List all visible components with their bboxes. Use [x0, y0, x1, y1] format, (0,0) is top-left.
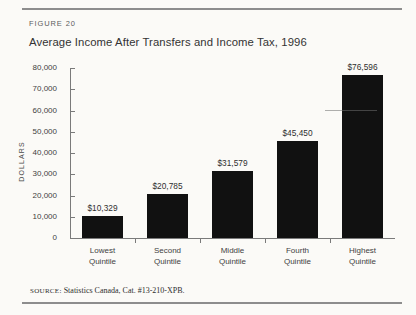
bar-slot: $45,450 [265, 68, 330, 238]
x-category-label: MiddleQuintile [200, 246, 265, 267]
y-axis-title: DOLLARS [18, 132, 25, 192]
figure-page: FIGURE 20 Average Income After Transfers… [0, 0, 416, 315]
bar-value-label: $10,329 [61, 203, 144, 213]
bar-slot: $20,785 [135, 68, 200, 238]
bar[interactable] [342, 75, 384, 238]
x-tick-mark [135, 239, 136, 243]
x-category-label: LowestQuintile [70, 246, 135, 267]
y-tick-label: 20,000 [0, 191, 57, 200]
chart-area: DOLLARS 010,00020,00030,00040,00050,0006… [0, 62, 416, 274]
bar-slot: $31,579 [200, 68, 265, 238]
bar-value-label: $31,579 [191, 158, 274, 168]
y-tick-label: 40,000 [0, 148, 57, 157]
bar-slot: $10,329 [70, 68, 135, 238]
bar[interactable] [82, 216, 124, 238]
x-category-line: Quintile [330, 257, 395, 268]
y-tick-label: 60,000 [0, 106, 57, 115]
bar-value-label: $45,450 [256, 128, 339, 138]
x-category-line: Highest [330, 246, 395, 257]
scan-artifact-line [325, 110, 377, 111]
x-category-line: Quintile [135, 257, 200, 268]
bar[interactable] [147, 194, 189, 238]
source-citation: Statistics Canada, Cat. #13-210-XPB. [62, 286, 185, 295]
y-tick-label: 70,000 [0, 84, 57, 93]
bottom-divider [22, 302, 402, 304]
x-tick-mark [330, 239, 331, 243]
bar-value-label: $20,785 [126, 181, 209, 191]
source-note: SOURCE: Statistics Canada, Cat. #13-210-… [30, 286, 185, 295]
bar[interactable] [212, 171, 254, 238]
bar-series: $10,329$20,785$31,579$45,450$76,596 [70, 68, 395, 238]
y-tick-label: 30,000 [0, 169, 57, 178]
bar-value-label: $76,596 [321, 62, 404, 72]
x-category-label: HighestQuintile [330, 246, 395, 267]
source-label: SOURCE: [30, 287, 62, 295]
y-tick-mark [71, 238, 75, 239]
x-tick-mark [265, 239, 266, 243]
y-tick-label: 50,000 [0, 127, 57, 136]
x-category-line: Lowest [70, 246, 135, 257]
bar[interactable] [277, 141, 319, 238]
x-category-label: FourthQuintile [265, 246, 330, 267]
x-category-line: Middle [200, 246, 265, 257]
x-category-line: Fourth [265, 246, 330, 257]
bar-slot: $76,596 [330, 68, 395, 238]
y-tick-label: 80,000 [0, 63, 57, 72]
x-category-label: SecondQuintile [135, 246, 200, 267]
figure-number-label: FIGURE 20 [29, 19, 76, 28]
x-category-line: Second [135, 246, 200, 257]
y-tick-label: 10,000 [0, 212, 57, 221]
top-divider [22, 8, 402, 10]
x-category-line: Quintile [200, 257, 265, 268]
y-tick-label: 0 [0, 233, 57, 242]
x-category-line: Quintile [70, 257, 135, 268]
x-axis-line [70, 238, 395, 239]
plot-region: 010,00020,00030,00040,00050,00060,00070,… [70, 68, 395, 238]
figure-title: Average Income After Transfers and Incom… [29, 36, 307, 48]
x-category-line: Quintile [265, 257, 330, 268]
x-tick-mark [200, 239, 201, 243]
